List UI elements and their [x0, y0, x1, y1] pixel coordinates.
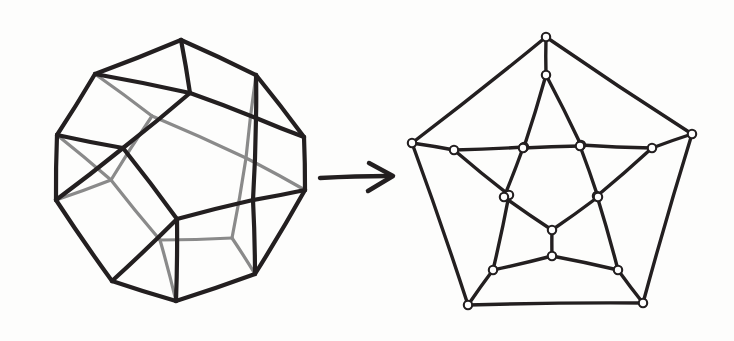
- graph-vertex: [450, 146, 458, 154]
- arrow-shaft: [320, 176, 388, 178]
- ring2-edge: [454, 147, 524, 150]
- inner-edge: [523, 146, 580, 148]
- graph-vertex: [542, 71, 550, 79]
- outline-edge: [95, 40, 181, 74]
- front-pentagon-edge: [253, 118, 256, 200]
- schlegel-edges: [412, 37, 692, 305]
- outline-edge: [176, 274, 255, 301]
- inner-edge: [580, 146, 598, 197]
- hidden-edge: [160, 240, 176, 301]
- hidden-edge: [56, 180, 111, 200]
- graph-vertex: [464, 301, 472, 309]
- figure-root: [0, 0, 734, 341]
- outer-edge: [643, 134, 692, 303]
- figure-canvas: [0, 0, 734, 341]
- dodecahedron-hidden-edges: [56, 74, 305, 301]
- inner-edge: [504, 148, 523, 197]
- outline-edge: [181, 40, 256, 75]
- outline-edge: [57, 74, 95, 135]
- front-pentagon-edge: [177, 200, 253, 219]
- ring2-edge: [546, 75, 581, 145]
- graph-vertex: [648, 144, 656, 152]
- outer-edge: [412, 37, 546, 143]
- radial-edge: [652, 134, 692, 148]
- ring2-edge: [552, 256, 618, 270]
- graph-vertex: [614, 266, 622, 274]
- outline-edge: [56, 200, 112, 281]
- graph-vertex: [489, 266, 497, 274]
- graph-vertex: [519, 144, 527, 152]
- graph-vertex: [408, 139, 416, 147]
- ring2-edge: [493, 195, 509, 270]
- outline-edge: [56, 135, 57, 200]
- hidden-edge: [232, 238, 255, 274]
- outer-edge: [468, 303, 643, 305]
- ring2-edge: [597, 148, 652, 196]
- ring2-edge: [597, 196, 618, 270]
- front-pentagon-edge: [123, 148, 177, 219]
- graph-vertex: [548, 226, 556, 234]
- outer-edge: [412, 143, 468, 305]
- ring2-edge: [524, 75, 546, 147]
- transformation-arrow: [320, 163, 393, 191]
- inner-edge: [552, 197, 598, 230]
- schlegel-diagram: [408, 33, 696, 309]
- ring2-edge: [454, 150, 509, 195]
- hidden-edge: [152, 116, 246, 158]
- outline-edge: [112, 281, 176, 301]
- spoke-edge: [253, 200, 255, 274]
- outline-edge: [255, 190, 305, 274]
- radial-edge: [468, 270, 493, 305]
- outline-edge: [304, 137, 305, 190]
- spoke-edge: [253, 190, 305, 200]
- graph-vertex: [576, 142, 584, 150]
- spoke-edge: [181, 40, 190, 93]
- graph-vertex: [688, 130, 696, 138]
- radial-edge: [412, 143, 454, 150]
- graph-vertex: [639, 299, 647, 307]
- inner-edge: [504, 197, 552, 230]
- hidden-edge: [232, 158, 246, 238]
- graph-vertex: [594, 193, 602, 201]
- graph-vertex: [542, 33, 550, 41]
- graph-vertex: [500, 193, 508, 201]
- graph-vertex: [548, 252, 556, 260]
- front-pentagon-edge: [190, 93, 256, 118]
- dodecahedron-solid: [56, 40, 305, 301]
- spoke-edge: [176, 219, 177, 301]
- ring2-edge: [581, 145, 652, 148]
- hidden-edge: [160, 238, 232, 240]
- radial-edge: [618, 270, 643, 303]
- ring2-edge: [493, 256, 552, 270]
